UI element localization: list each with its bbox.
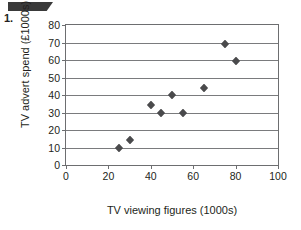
gridline-y	[66, 113, 278, 114]
data-point	[221, 40, 229, 48]
data-point	[168, 91, 176, 99]
x-axis-tick-label: 40	[145, 171, 157, 182]
x-axis-tick-label: 60	[187, 171, 199, 182]
data-point	[115, 143, 123, 151]
y-axis-tick-label: 70	[48, 38, 60, 48]
x-axis-tick	[151, 165, 152, 169]
x-axis-tick-label: 20	[103, 171, 115, 182]
plot-area: 01020304050607080020406080100	[65, 24, 279, 166]
data-point	[231, 57, 239, 65]
y-axis-tick	[62, 148, 66, 149]
data-point	[200, 84, 208, 92]
y-axis-tick	[62, 113, 66, 114]
y-axis-tick	[62, 25, 66, 26]
y-axis-tick-label: 50	[48, 73, 60, 83]
data-point	[125, 135, 133, 143]
y-axis-tick-label: 80	[48, 20, 60, 30]
y-axis-tick	[62, 130, 66, 131]
x-axis-tick-label: 80	[230, 171, 242, 182]
gridline-y	[66, 78, 278, 79]
y-axis-tick-label: 40	[48, 90, 60, 100]
y-axis-tick-label: 60	[48, 55, 60, 65]
data-point	[147, 100, 155, 108]
x-axis-tick	[236, 165, 237, 169]
x-axis-tick	[278, 165, 279, 169]
y-axis-tick-label: 0	[54, 160, 60, 170]
y-axis-title: TV advert spend (£1000s)	[19, 0, 32, 135]
gridline-y	[66, 130, 278, 131]
y-axis-tick-label: 10	[48, 143, 60, 153]
x-axis-tick-label: 100	[269, 171, 287, 182]
y-axis-tick	[62, 78, 66, 79]
gridline-y	[66, 43, 278, 44]
x-axis-tick	[193, 165, 194, 169]
scatter-chart-figure: 01020304050607080020406080100 TV advert …	[0, 0, 301, 230]
y-axis-tick	[62, 60, 66, 61]
x-axis-tick	[108, 165, 109, 169]
data-point	[178, 108, 186, 116]
x-axis-tick-label: 0	[63, 171, 69, 182]
data-point	[157, 108, 165, 116]
x-axis-title: TV viewing figures (1000s)	[65, 204, 279, 217]
gridline-y	[66, 60, 278, 61]
y-axis-tick-label: 30	[48, 108, 60, 118]
y-axis-tick-label: 20	[48, 125, 60, 135]
y-axis-tick	[62, 43, 66, 44]
gridline-y	[66, 148, 278, 149]
y-axis-tick	[62, 95, 66, 96]
x-axis-tick	[66, 165, 67, 169]
